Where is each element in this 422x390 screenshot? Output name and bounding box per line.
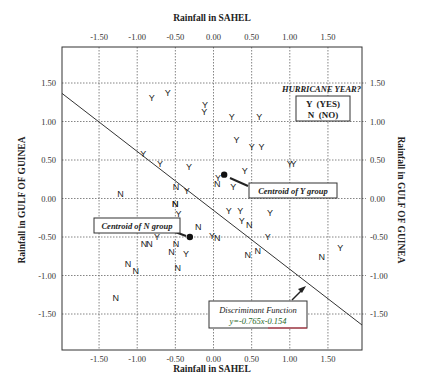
data-point-n: N	[255, 246, 262, 256]
y-tick-label-left: 1.50	[41, 78, 56, 88]
legend-title: HURRICANE YEAR?	[281, 84, 361, 94]
data-point-n: N	[173, 182, 180, 192]
centroid-y-label: Centroid of Y group	[258, 186, 328, 196]
scatter-chart: -1.50-1.00-0.500.000.501.001.50 -1.50-1.…	[0, 0, 422, 390]
data-point-y: Y	[249, 142, 255, 152]
data-point-y: Y	[157, 159, 163, 169]
x-axis-title-bottom: Rainfall in SAHEL	[173, 364, 251, 374]
y-tick-label-left: 0.50	[41, 155, 56, 165]
data-point-n: N	[113, 293, 120, 303]
x-tick-label-top: 1.00	[282, 32, 297, 42]
x-axis-bottom-ticks: -1.50-1.00-0.500.000.501.001.50	[90, 354, 335, 364]
centroid-dot	[221, 171, 227, 177]
data-point-n: N	[146, 239, 153, 249]
data-point-y: Y	[149, 93, 155, 103]
x-tick-label-top: -1.00	[128, 32, 146, 42]
data-point-y: Y	[229, 112, 235, 122]
x-tick-label-bottom: 1.00	[282, 354, 297, 364]
x-tick-label-bottom: 1.50	[321, 354, 336, 364]
data-point-n: N	[246, 220, 253, 230]
y-tick-label-left: -1.50	[38, 309, 56, 319]
data-point-y: Y	[230, 182, 236, 192]
data-point-n: N	[125, 259, 132, 269]
data-point-n: N	[168, 247, 175, 257]
y-axis-title-right: Rainfall in GULF OF GUINEA	[396, 136, 406, 263]
data-point-y: Y	[337, 243, 343, 253]
legend-no: N (NO)	[308, 110, 339, 120]
data-point-y: Y	[242, 166, 248, 176]
data-point-y: Y	[183, 249, 189, 259]
y-axis-title-left: Rainfall in GULF OF GUINEA	[17, 136, 27, 263]
data-point-n: N	[172, 199, 179, 209]
discriminant-line	[62, 93, 362, 325]
data-point-y: Y	[226, 206, 232, 216]
data-point-n: N	[117, 189, 124, 199]
legend-yes: Y (YES)	[306, 99, 340, 109]
centroid-dot	[187, 234, 193, 240]
x-tick-label-bottom: 0.00	[206, 354, 221, 364]
x-axis-top-ticks: -1.50-1.00-0.500.000.501.001.50	[90, 32, 335, 42]
data-point-n: N	[214, 179, 221, 189]
x-tick-label-top: 0.50	[244, 32, 259, 42]
y-tick-label-right: 0.50	[370, 155, 385, 165]
data-point-y: Y	[291, 159, 297, 169]
legend: HURRICANE YEAR? Y (YES) N (NO)	[281, 84, 361, 121]
data-point-y: Y	[239, 216, 245, 226]
y-axis-right-ticks: 1.501.000.500.00-0.50-1.00-1.50	[370, 78, 388, 319]
discriminant-title: Discriminant Function	[218, 305, 297, 315]
data-point-y: Y	[233, 135, 239, 145]
x-axis-title-top: Rainfall in SAHEL	[173, 13, 251, 23]
y-tick-label-left: 1.00	[41, 117, 56, 127]
data-point-y: Y	[237, 206, 243, 216]
x-tick-label-bottom: -1.00	[128, 354, 146, 364]
y-tick-label-right: 1.00	[370, 117, 385, 127]
data-point-n: N	[319, 252, 326, 262]
y-tick-label-right: 1.50	[370, 78, 385, 88]
y-axis-left-ticks: 1.501.000.500.00-0.50-1.00-1.50	[38, 78, 56, 319]
data-point-y: Y	[267, 208, 273, 218]
discriminant-annotation: Discriminant Function y=-0.765x-0.154	[209, 286, 307, 328]
data-point-y: Y	[201, 107, 207, 117]
data-point-n: N	[132, 266, 139, 276]
y-tick-label-right: -0.50	[370, 232, 388, 242]
data-point-y: Y	[165, 88, 171, 98]
data-point-y: Y	[186, 162, 192, 172]
data-point-y: Y	[184, 186, 190, 196]
y-tick-label-right: -1.00	[370, 271, 388, 281]
centroid-y-annotation: Centroid of Y group	[230, 178, 337, 198]
x-tick-label-top: -0.50	[166, 32, 184, 42]
y-tick-label-right: 0.00	[370, 194, 385, 204]
x-tick-label-bottom: 0.50	[244, 354, 259, 364]
data-point-n: N	[245, 250, 252, 260]
data-point-n: N	[195, 222, 202, 232]
data-point-y: Y	[265, 232, 271, 242]
x-tick-label-bottom: -0.50	[166, 354, 184, 364]
y-tick-label-left: -0.50	[38, 232, 56, 242]
data-point-n: N	[214, 233, 221, 243]
data-point-y: Y	[256, 112, 262, 122]
data-point-n: N	[174, 263, 181, 273]
y-tick-label-right: -1.50	[370, 309, 388, 319]
x-tick-label-bottom: -1.50	[90, 354, 108, 364]
data-point-y: Y	[259, 142, 265, 152]
centroid-n-annotation: Centroid of N group	[94, 218, 186, 236]
x-tick-label-top: 1.50	[321, 32, 336, 42]
discriminant-equation: y=-0.765x-0.154	[228, 316, 287, 326]
y-tick-label-left: 0.00	[41, 194, 56, 204]
data-point-y: Y	[140, 149, 146, 159]
x-tick-label-top: -1.50	[90, 32, 108, 42]
y-tick-label-left: -1.00	[38, 271, 56, 281]
x-tick-label-top: 0.00	[206, 32, 221, 42]
centroid-n-label: Centroid of N group	[101, 221, 172, 231]
